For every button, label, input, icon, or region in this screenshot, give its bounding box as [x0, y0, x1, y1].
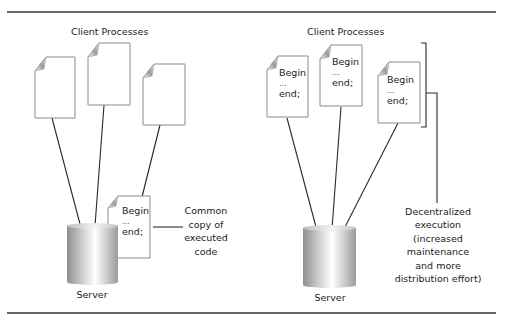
left-annotation-line-2: copy of: [184, 218, 228, 232]
code-line-end: end;: [332, 77, 359, 89]
code-line-ellipsis: ...: [387, 86, 414, 95]
left-connector-1: [52, 118, 80, 224]
code-line-ellipsis: ...: [332, 68, 359, 77]
code-line-end: end;: [387, 95, 414, 107]
left-client-document-3: [143, 64, 185, 125]
right-annotation-line-4: maintenance: [395, 245, 482, 258]
right-panel-title: Client Processes: [307, 25, 384, 38]
left-server-cylinder: [67, 223, 118, 285]
left-panel-title: Client Processes: [71, 25, 148, 38]
right-connector-3: [345, 123, 398, 227]
right-server-cylinder: [303, 225, 356, 288]
left-code-document-text: Begin ... end;: [122, 205, 149, 238]
left-client-document-1: [35, 57, 75, 118]
right-annotation-line-3: (increased: [395, 232, 482, 245]
left-connector-2: [95, 105, 104, 226]
right-annotation-line-1: Decentralized: [395, 205, 482, 218]
right-annotation-line-5: and more: [395, 259, 482, 272]
left-annotation-line-1: Common: [184, 204, 228, 218]
right-connector-1: [287, 118, 316, 227]
right-bracket-leader: [426, 93, 437, 203]
right-connector-2: [332, 107, 341, 229]
left-annotation-line-4: code: [184, 245, 228, 259]
right-bracket: [421, 43, 426, 127]
right-client-document-3-text: Begin ... end;: [387, 74, 414, 107]
right-server-label: Server: [314, 291, 345, 304]
right-annotation-line-6: distribution effort): [395, 272, 482, 285]
right-annotation: Decentralized execution (increased maint…: [395, 205, 482, 285]
code-line-begin: Begin: [122, 205, 149, 217]
left-client-document-2: [88, 43, 130, 105]
code-line-begin: Begin: [387, 74, 414, 86]
right-annotation-line-2: execution: [395, 218, 482, 231]
code-line-ellipsis: ...: [122, 217, 149, 226]
code-line-begin: Begin: [279, 67, 306, 79]
left-annotation: Common copy of executed code: [184, 204, 228, 258]
right-client-document-2-text: Begin ... end;: [332, 56, 359, 89]
left-connector-3: [142, 125, 160, 197]
left-annotation-line-3: executed: [184, 231, 228, 245]
code-line-end: end;: [122, 226, 149, 238]
code-line-ellipsis: ...: [279, 79, 306, 88]
code-line-begin: Begin: [332, 56, 359, 68]
right-client-document-1-text: Begin ... end;: [279, 67, 306, 100]
left-server-label: Server: [76, 288, 107, 301]
code-line-end: end;: [279, 88, 306, 100]
